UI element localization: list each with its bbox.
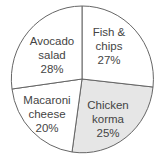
label-line2: chips bbox=[96, 40, 123, 52]
pie-chart: Fish & chips 27% Chicken korma 25% Macar… bbox=[0, 0, 161, 163]
slice-avocado-salad bbox=[11, 6, 82, 89]
label-line2: korma bbox=[92, 113, 125, 125]
label-line2: cheese bbox=[28, 108, 65, 120]
label-line1: Avocado bbox=[30, 35, 75, 47]
label-line2: salad bbox=[38, 49, 66, 61]
label-percent: 25% bbox=[96, 127, 119, 139]
label-percent: 27% bbox=[97, 54, 120, 66]
label-line1: Macaroni bbox=[23, 94, 70, 106]
label-line1: Chicken bbox=[87, 99, 129, 111]
label-percent: 28% bbox=[40, 63, 63, 75]
label-percent: 20% bbox=[35, 122, 58, 134]
label-line1: Fish & bbox=[93, 26, 126, 38]
